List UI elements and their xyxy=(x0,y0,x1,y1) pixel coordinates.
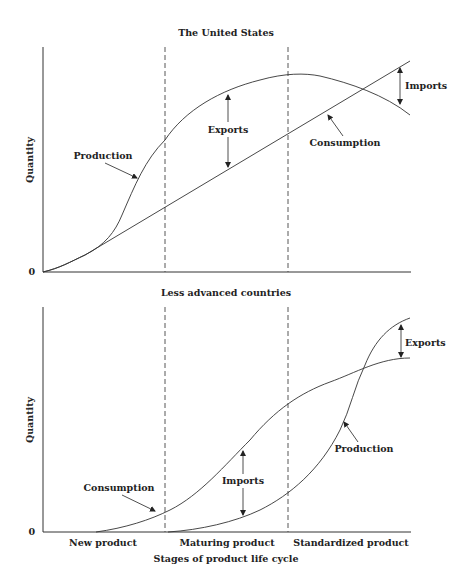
product-life-cycle-diagram: The United States 0 Quantity Production … xyxy=(0,0,472,582)
us-exports-label: Exports xyxy=(208,124,249,135)
lac-y-axis-label: Quantity xyxy=(24,396,35,443)
lac-zero-label: 0 xyxy=(28,526,35,537)
us-production-pointer-arrow xyxy=(105,163,137,178)
us-production-curve xyxy=(43,74,410,272)
us-zero-label: 0 xyxy=(28,266,35,277)
stage-label-standardized-product: Standardized product xyxy=(293,537,409,548)
us-imports-label: Imports xyxy=(405,80,447,91)
us-consumption-curve xyxy=(43,61,410,272)
lac-imports-label: Imports xyxy=(222,475,264,486)
stage-label-maturing-product: Maturing product xyxy=(179,537,275,548)
lac-consumption-label: Consumption xyxy=(84,482,155,493)
us-y-axis-label: Quantity xyxy=(24,136,35,183)
less-advanced-chart: Less advanced countries 0 Quantity Consu… xyxy=(24,287,446,564)
lac-production-pointer-arrow xyxy=(344,422,358,442)
lac-production-label: Production xyxy=(334,443,393,454)
lac-consumption-pointer-arrow xyxy=(122,495,155,511)
us-production-label: Production xyxy=(73,150,132,161)
lac-chart-title: Less advanced countries xyxy=(161,287,291,298)
lac-axes xyxy=(43,307,411,532)
lac-production-curve xyxy=(168,318,410,532)
x-axis-label: Stages of product life cycle xyxy=(154,553,299,564)
lac-exports-label: Exports xyxy=(405,337,446,348)
us-consumption-pointer-arrow xyxy=(328,115,343,136)
us-chart: The United States 0 Quantity Production … xyxy=(24,27,447,277)
us-chart-title: The United States xyxy=(178,27,274,38)
us-consumption-label: Consumption xyxy=(310,137,381,148)
stage-label-new-product: New product xyxy=(69,537,138,548)
